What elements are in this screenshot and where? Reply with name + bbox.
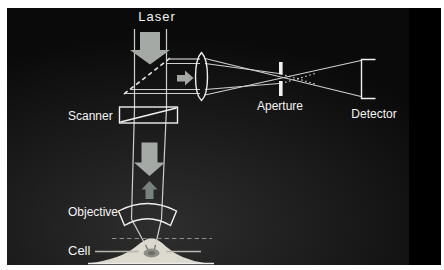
slide-background (7, 8, 441, 265)
label-scanner: Scanner (68, 109, 113, 123)
label-objective: Objective (68, 205, 118, 219)
slide-right-black-band (409, 8, 441, 265)
aperture-plate-bottom (279, 81, 283, 96)
label-aperture: Aperture (257, 99, 303, 113)
label-laser: Laser (138, 9, 176, 24)
confocal-microscope-schematic: Laser Scanner Aperture Detector Objectiv… (0, 0, 444, 270)
label-detector: Detector (351, 107, 396, 121)
label-cell: Cell (68, 243, 91, 258)
focal-spot-core (148, 251, 155, 255)
aperture-plate-top (279, 62, 283, 75)
slide-photo: Laser Scanner Aperture Detector Objectiv… (0, 0, 444, 270)
